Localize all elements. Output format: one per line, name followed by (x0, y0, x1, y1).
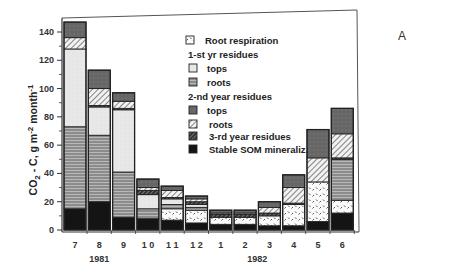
legend-label-root_resp: Root respiration (205, 35, 279, 46)
bar-segment-r1_tops (88, 107, 110, 135)
bar-9 (258, 202, 280, 230)
y-axis: 020406080100120140 (39, 27, 62, 235)
x-tick-label: 1 1 (166, 240, 179, 250)
x-tick-label: 5 (315, 240, 320, 250)
x-tick-label: 7 (72, 240, 77, 250)
y-tick-label: 120 (39, 55, 54, 65)
bar-segment-r1_tops (113, 110, 135, 172)
legend-label-r1_roots: roots (207, 77, 231, 88)
x-tick-label: 2 (243, 240, 248, 250)
bar-segment-r3 (137, 190, 159, 194)
bar-segment-r1_tops (137, 195, 159, 209)
bar-segment-r2_tops (258, 202, 280, 208)
bar-segment-r2_tops (137, 179, 159, 187)
x-tick-label: 9 (121, 240, 126, 250)
bar-segment-r1_roots (113, 172, 135, 217)
y-tick-label: 80 (44, 112, 54, 122)
bar-6 (186, 196, 208, 230)
y-tick-label: 60 (44, 140, 54, 150)
stacked-bar-chart: 020406080100120140 7891 01 11 2123456198… (0, 0, 455, 273)
legend-swatch-r1_tops (189, 64, 197, 72)
year-label: 1981 (89, 254, 109, 264)
legend-swatch-r3 (189, 132, 197, 140)
x-tick-label: 8 (97, 240, 102, 250)
x-tick-label: 3 (267, 240, 272, 250)
x-tick-label: 6 (340, 240, 345, 250)
bar-segment-r2_tops (283, 175, 305, 188)
bar-12 (331, 108, 353, 230)
bar-segment-som (88, 202, 110, 230)
bar-segment-r2_roots (307, 158, 329, 182)
bar-segment-root_resp (210, 217, 232, 224)
bar-8 (234, 210, 256, 230)
bar-segment-som (307, 222, 329, 230)
bar-segment-root_resp (331, 200, 353, 213)
legend-swatch-som (189, 145, 197, 153)
x-tick-label: 1 (218, 240, 223, 250)
legend-label-r2_roots: roots (209, 119, 233, 130)
bar-segment-r1_tops (64, 49, 86, 127)
bar-7 (210, 210, 232, 230)
bar-segment-som (210, 224, 232, 230)
x-axis: 7891 01 11 212345619811982 (72, 230, 354, 264)
legend-label-r1_tops: tops (207, 63, 227, 74)
bar-segment-r2_tops (64, 22, 86, 38)
legend-label-som: Stable SOM mineraliz. (209, 144, 308, 155)
year-label: 1982 (247, 254, 267, 264)
legend-swatch-root_resp (186, 36, 194, 44)
legend-swatch-r1_roots (189, 78, 197, 86)
y-tick-label: 0 (49, 225, 54, 235)
bar-segment-r2_roots (64, 38, 86, 49)
bar-segment-r2_tops (331, 108, 353, 133)
bar-segment-som (113, 217, 135, 230)
bar-segment-r2_roots (88, 89, 110, 106)
y-tick-label: 40 (44, 168, 54, 178)
bar-5 (161, 186, 183, 230)
bar-segment-r2_roots (161, 190, 183, 197)
x-tick-label: 1 0 (142, 240, 155, 250)
bar-4 (137, 179, 159, 230)
x-tick-label: 4 (291, 240, 296, 250)
bar-segment-r2_tops (88, 70, 110, 88)
bar-segment-r2_tops (113, 93, 135, 101)
bar-segment-r1_tops (161, 199, 183, 205)
bar-segment-r1_roots (331, 159, 353, 200)
bar-segment-root_resp (283, 205, 305, 226)
panel-label: A (398, 29, 406, 43)
bar-segment-root_resp (161, 209, 183, 220)
bar-segment-som (64, 209, 86, 230)
bar-segment-som (234, 224, 256, 230)
bar-segment-r2_roots (283, 188, 305, 204)
legend-header: 1-st yr residues (188, 49, 258, 60)
bar-segment-r1_roots (64, 127, 86, 209)
bar-segment-r2_roots (113, 101, 135, 108)
bar-segment-r1_roots (137, 209, 159, 219)
x-tick-label: 1 2 (190, 240, 203, 250)
bar-segment-som (161, 220, 183, 230)
bar-segment-root_resp (307, 182, 329, 222)
bar-segment-som (186, 223, 208, 230)
legend: Root respiration1-st yr residuestopsroot… (186, 35, 308, 155)
y-tick-label: 140 (39, 27, 54, 37)
bar-segment-root_resp (234, 217, 256, 224)
bar-1 (64, 22, 86, 230)
bar-segment-r2_roots (331, 134, 353, 158)
legend-label-r2_tops: tops (207, 105, 227, 116)
bar-segment-root_resp (186, 210, 208, 223)
bar-segment-som (331, 213, 353, 230)
bar-segment-root_resp (258, 216, 280, 226)
bar-segment-r2_roots (258, 207, 280, 213)
bar-segment-r1_roots (161, 205, 183, 209)
y-tick-label: 100 (39, 84, 54, 94)
legend-swatch-r2_roots (189, 120, 197, 128)
y-axis-label: CO2 - C, g m-2 month-1 (26, 84, 42, 195)
bar-segment-r2_tops (307, 130, 329, 158)
bar-3 (113, 93, 135, 230)
bar-10 (283, 175, 305, 230)
legend-label-r3: 3-rd year residues (209, 131, 291, 142)
bar-segment-r1_roots (88, 135, 110, 201)
bar-11 (307, 130, 329, 230)
legend-header: 2-nd year residues (188, 91, 272, 102)
y-tick-label: 20 (44, 197, 54, 207)
bar-segment-som (137, 219, 159, 230)
